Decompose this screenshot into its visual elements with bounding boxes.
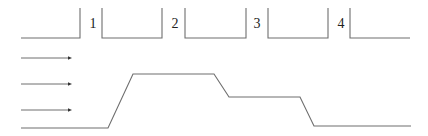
- arrows-group: [21, 56, 72, 112]
- profile-line: [21, 74, 411, 128]
- stage-box-2: [102, 8, 162, 38]
- stage-label-2: 2: [172, 16, 179, 31]
- arrow-icon: [21, 108, 72, 112]
- top-row-labels: 1234: [90, 16, 345, 31]
- arrow-icon: [21, 82, 72, 86]
- stage-label-4: 4: [338, 16, 345, 31]
- arrow-icon: [21, 56, 72, 60]
- stage-box-5: [350, 8, 410, 38]
- stage-box-1: [21, 8, 80, 38]
- top-row-boxes: [21, 8, 410, 38]
- stage-profile-diagram: 1234: [0, 0, 428, 136]
- stage-label-1: 1: [90, 16, 97, 31]
- stage-box-4: [268, 8, 328, 38]
- stage-label-3: 3: [254, 16, 261, 31]
- stage-box-3: [185, 8, 246, 38]
